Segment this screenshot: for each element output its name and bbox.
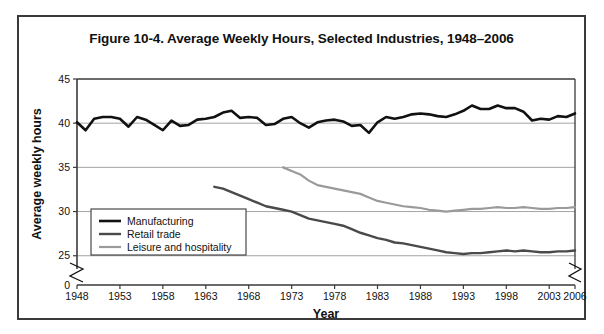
x-tick-label: 1973 [280, 290, 304, 302]
x-tick-label: 2003 [538, 290, 562, 302]
legend-label: Manufacturing [127, 215, 194, 227]
figure-panel: Figure 10-4. Average Weekly Hours, Selec… [17, 15, 586, 320]
y-axis: 02530354045 [58, 73, 83, 291]
x-axis: 1948195319581963196819731978198319881993… [65, 263, 587, 302]
legend-label: Retail trade [127, 228, 181, 240]
x-tick-label: 1953 [108, 290, 132, 302]
series-line [214, 187, 575, 254]
y-tick-label: 30 [58, 205, 70, 217]
x-tick-label: 2006 [563, 290, 587, 302]
y-tick-label: 25 [58, 249, 70, 261]
x-tick-label: 1978 [323, 290, 347, 302]
x-tick-label: 1958 [151, 290, 175, 302]
y-tick-label: 40 [58, 117, 70, 129]
y-tick-label: 35 [58, 161, 70, 173]
y-axis-break-icon [70, 263, 83, 282]
x-axis-break-icon [569, 263, 581, 282]
x-axis-title: Year [313, 307, 340, 321]
x-tick-label: 1993 [452, 290, 476, 302]
y-axis-title: Average weekly hours [30, 108, 44, 240]
y-tick-label: 45 [58, 73, 70, 85]
x-tick-label: 1998 [495, 290, 519, 302]
x-tick-label: 1988 [409, 290, 433, 302]
x-tick-label: 1968 [237, 290, 261, 302]
legend-label: Leisure and hospitality [127, 241, 232, 253]
x-tick-label: 1948 [65, 290, 89, 302]
chart-legend: ManufacturingRetail tradeLeisure and hos… [91, 209, 246, 255]
series-line [283, 167, 575, 211]
y-tick-label: 0 [64, 279, 70, 291]
chart-canvas: 02530354045 1948195319581963196819731978… [19, 17, 588, 322]
x-tick-label: 1983 [366, 290, 390, 302]
series-line [77, 106, 575, 133]
x-tick-label: 1963 [194, 290, 218, 302]
